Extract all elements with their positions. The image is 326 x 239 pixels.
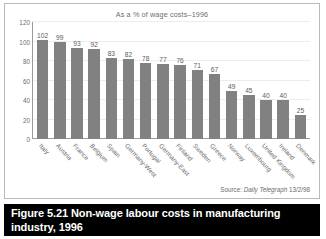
- bar-slot: 92: [86, 22, 103, 139]
- bar-slot: 76: [172, 22, 189, 139]
- figure-caption: Figure 5.21 Non-wage labour costs in man…: [4, 204, 320, 236]
- bar: [123, 59, 135, 139]
- x-label-slot: France: [68, 141, 85, 196]
- bar: [243, 95, 255, 139]
- plot-area: 020406080100120 102999392838278777671674…: [32, 22, 310, 139]
- bar: [260, 100, 272, 139]
- bar-series: 102999392838278777671674945404025: [32, 22, 310, 139]
- bar-slot: 71: [189, 22, 206, 139]
- bar: [37, 40, 49, 139]
- x-label-slot: Finland: [172, 141, 189, 196]
- bar: [157, 64, 169, 139]
- bar-slot: 83: [103, 22, 120, 139]
- bar-slot: 82: [120, 22, 137, 139]
- y-axis-tick-label: 100: [19, 38, 30, 45]
- x-label-slot: Germany-West: [120, 141, 137, 196]
- bar: [71, 48, 83, 139]
- bar-slot: 40: [257, 22, 274, 139]
- chart-title: As a % of wage costs–1996: [5, 10, 319, 19]
- x-axis-category-label: Italy: [37, 142, 50, 155]
- y-axis-tick-label: 0: [26, 136, 30, 143]
- x-label-slot: Spain: [103, 141, 120, 196]
- source-note: Source: Daily Telegraph 13/2/98: [220, 186, 310, 193]
- figure-container: As a % of wage costs–1996 02040608010012…: [0, 0, 326, 239]
- bar-slot: 40: [275, 22, 292, 139]
- bar: [88, 49, 100, 139]
- y-axis-tick-label: 40: [23, 97, 30, 104]
- x-label-slot: Italy: [34, 141, 51, 196]
- x-axis-category-label: Denmark: [295, 142, 318, 166]
- bar: [54, 42, 66, 139]
- figure-number: Figure 5.21: [11, 207, 68, 219]
- source-date: 13/2/98: [289, 186, 310, 193]
- x-label-slot: Germany-East: [154, 141, 171, 196]
- bar-value-label: 25: [283, 107, 317, 114]
- bar-slot: 25: [292, 22, 309, 139]
- y-axis-tick-label: 120: [19, 19, 30, 26]
- bar: [192, 70, 204, 139]
- bar: [295, 115, 307, 139]
- bar-slot: 67: [206, 22, 223, 139]
- x-label-slot: Portugal: [137, 141, 154, 196]
- source-publication: Daily Telegraph: [244, 186, 288, 193]
- x-label-slot: Belgium: [86, 141, 103, 196]
- bar-slot: 77: [154, 22, 171, 139]
- bar-slot: 49: [223, 22, 240, 139]
- x-label-slot: Sweden: [189, 141, 206, 196]
- y-axis-tick-label: 80: [23, 58, 30, 65]
- bar-slot: 78: [137, 22, 154, 139]
- bar-slot: 45: [240, 22, 257, 139]
- bar-slot: 93: [68, 22, 85, 139]
- x-label-slot: Austria: [51, 141, 68, 196]
- chart-frame: As a % of wage costs–1996 02040608010012…: [4, 3, 320, 199]
- bar: [174, 65, 186, 139]
- bar: [226, 91, 238, 139]
- y-axis-tick-label: 60: [23, 77, 30, 84]
- bar: [140, 63, 152, 139]
- y-axis-tick-label: 20: [23, 116, 30, 123]
- bar: [106, 58, 118, 139]
- source-prefix: Source:: [220, 186, 242, 193]
